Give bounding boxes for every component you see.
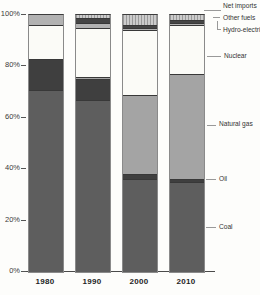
segment-coal-2000 — [123, 179, 157, 272]
segment-nuclear-2000 — [123, 30, 157, 94]
coal-pointer-line — [206, 227, 216, 228]
segment-hydro-electric-1980 — [29, 15, 63, 25]
legend-label-hydro-electric: Hydro-electric — [223, 26, 260, 34]
x-label-1980: 1980 — [28, 277, 62, 286]
x-label-2010: 2010 — [169, 277, 203, 286]
legend-label-natural-gas: Natural gas — [219, 120, 257, 128]
legend-label-other-fuels: Other fuels — [223, 14, 255, 22]
y-tick-label-100: 100% — [0, 10, 20, 18]
net-imports-pointer-line — [204, 10, 221, 11]
segment-coal-1990 — [76, 100, 110, 272]
legend-label-nuclear: Nuclear — [224, 52, 247, 60]
legend-label-oil: Oil — [219, 175, 227, 183]
legend-label-net-imports: Net imports — [223, 2, 257, 10]
segment-net-imports-2000 — [123, 15, 157, 25]
y-tick-mark — [21, 14, 26, 15]
y-tick-label-20: 20% — [0, 216, 20, 224]
oil-pointer-line — [206, 179, 216, 180]
segment-nuclear-1980 — [29, 25, 63, 58]
x-label-1990: 1990 — [75, 277, 109, 286]
stacked-bar-chart: 100%80%60%40%20%0% 1980199020002010 Net … — [0, 0, 260, 295]
bar-1990 — [75, 14, 111, 273]
segment-oil-1990 — [76, 79, 110, 100]
y-tick-mark — [21, 220, 26, 221]
segment-coal-2010 — [170, 182, 204, 272]
segment-nuclear-1990 — [76, 28, 110, 77]
x-label-2000: 2000 — [122, 277, 156, 286]
segment-natural-gas-2010 — [170, 74, 204, 179]
bar-2010 — [169, 14, 205, 273]
nuclear-pointer-line — [207, 56, 221, 57]
y-tick-mark — [21, 117, 26, 118]
y-tick-label-80: 80% — [0, 61, 20, 69]
bar-2000 — [122, 14, 158, 273]
y-tick-mark — [21, 168, 26, 169]
y-tick-label-60: 60% — [0, 113, 20, 121]
legend-label-coal: Coal — [219, 223, 233, 231]
segment-nuclear-2010 — [170, 25, 204, 74]
y-tick-label-0: 0% — [0, 267, 20, 275]
other-fuels-pointer-line — [213, 17, 220, 18]
segment-oil-1980 — [29, 59, 63, 90]
hydro-pointer-line-horizontal — [217, 29, 221, 30]
bar-1980 — [28, 14, 64, 273]
segment-coal-1980 — [29, 90, 63, 272]
segment-natural-gas-2000 — [123, 95, 157, 175]
y-tick-mark — [21, 65, 26, 66]
y-tick-label-40: 40% — [0, 164, 20, 172]
natural-gas-pointer-line — [207, 125, 216, 126]
